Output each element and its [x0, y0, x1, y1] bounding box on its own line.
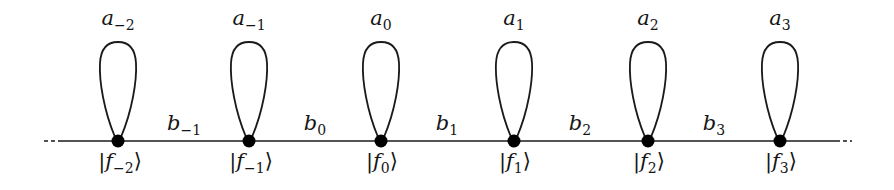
- edge-label-b-0: b0: [304, 113, 326, 134]
- ket-label-f-3: |f3⟩: [765, 151, 797, 172]
- ket-label-f-1: |f1⟩: [499, 151, 531, 172]
- ket-label-f-2: |f2⟩: [633, 151, 665, 172]
- loop-label-a-2: a2: [637, 8, 658, 29]
- edge-label-b-2: b2: [569, 113, 591, 134]
- edge-label-b-3: b3: [703, 113, 725, 134]
- edge-label-b-minus-1: b−1: [167, 113, 201, 134]
- ket-label-f-minus-1: |f−1⟩: [229, 151, 273, 172]
- chain-diagram: a−2 a−1 a0 a1 a2 a3 b−1 b0 b1 b2 b: [0, 0, 894, 190]
- site-node-3: [508, 135, 521, 148]
- loop-label-a-0: a0: [370, 8, 391, 29]
- edge-label-b-1: b1: [436, 113, 458, 134]
- self-loop-2: [363, 42, 399, 137]
- loop-label-a-minus-2: a−2: [101, 8, 134, 29]
- loop-label-a-3: a3: [769, 8, 790, 29]
- site-node-0: [112, 135, 125, 148]
- site-node-2: [375, 135, 388, 148]
- site-node-5: [774, 135, 787, 148]
- self-loop-4: [630, 42, 666, 137]
- self-loop-1: [231, 42, 267, 137]
- ket-label-f-minus-2: |f−2⟩: [98, 151, 142, 172]
- site-node-4: [642, 135, 655, 148]
- self-loop-5: [762, 42, 798, 137]
- ket-label-f-0: |f0⟩: [366, 151, 398, 172]
- self-loop-0: [100, 42, 136, 137]
- self-loop-3: [496, 42, 532, 137]
- site-node-1: [243, 135, 256, 148]
- loop-label-a-1: a1: [503, 8, 524, 29]
- loop-label-a-minus-1: a−1: [232, 8, 265, 29]
